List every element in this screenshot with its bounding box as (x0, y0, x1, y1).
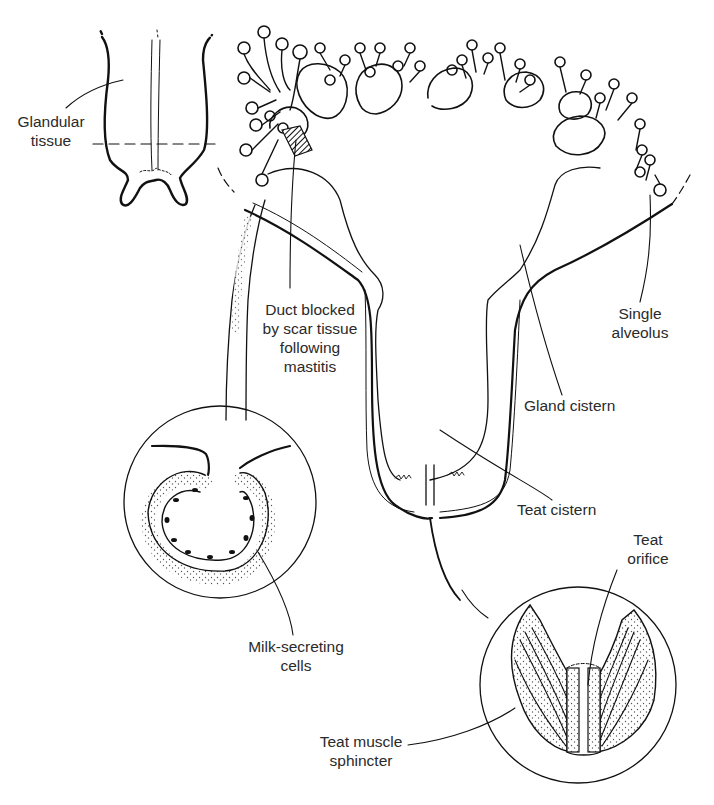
label-duct-blocked: Duct blocked by scar tissue following ma… (248, 300, 372, 376)
label-teat-muscle-sphincter: Teat muscle sphincter (312, 732, 410, 770)
label-milk-secreting-cells: Milk-secreting cells (238, 637, 354, 675)
udder-overview-inset (66, 30, 216, 205)
alveolus-magnified-inset (124, 200, 316, 635)
label-single-alveolus: Single alveolus (604, 304, 676, 342)
label-glandular-tissue: Glandular tissue (14, 112, 88, 150)
label-teat-orifice: Teat orifice (618, 530, 678, 568)
label-gland-cistern: Gland cistern (524, 396, 615, 415)
label-teat-cistern: Teat cistern (517, 500, 596, 519)
